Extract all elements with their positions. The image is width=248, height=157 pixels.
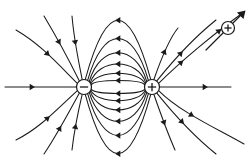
field-line-canvas — [0, 0, 248, 157]
positive-charge — [145, 80, 160, 95]
diagram-background — [0, 0, 248, 157]
test-charge — [222, 22, 235, 35]
negative-charge — [77, 80, 92, 95]
dipole-field-diagram — [0, 0, 248, 157]
